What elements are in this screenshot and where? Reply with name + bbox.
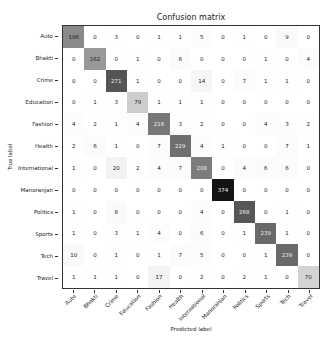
matrix-cell: 14: [191, 70, 212, 92]
matrix-cell: 186: [63, 26, 84, 48]
y-tick-label: Fashion: [0, 113, 60, 135]
matrix-cell: 20: [106, 157, 127, 179]
matrix-cell: 0: [63, 92, 84, 114]
y-tick-label: Bhakti: [0, 47, 60, 69]
x-tick: Bhakti: [84, 290, 106, 320]
matrix-cell: 1: [148, 244, 169, 266]
matrix-cell: 0: [191, 48, 212, 70]
matrix-cell: 5: [191, 26, 212, 48]
matrix-cell: 1: [148, 92, 169, 114]
matrix-cell: 4: [255, 113, 276, 135]
matrix-cell: 0: [170, 223, 191, 245]
y-tick-label: Crime: [0, 69, 60, 91]
matrix-cell: 0: [298, 201, 319, 223]
y-tick-label: Education: [0, 91, 60, 113]
x-tick: Travel: [299, 290, 321, 320]
y-tick-label: Politics: [0, 201, 60, 223]
x-tick: Tech: [277, 290, 299, 320]
matrix-cell: 1: [255, 244, 276, 266]
matrix-cell: 0: [234, 179, 255, 201]
matrix-cell: 8: [106, 201, 127, 223]
chart-title: Confusion matrix: [62, 13, 320, 22]
matrix-cell: 4: [191, 135, 212, 157]
matrix-cell: 0: [234, 113, 255, 135]
y-tick-label: Travel: [0, 267, 60, 289]
matrix-cell: 271: [106, 70, 127, 92]
x-tick: Auto: [62, 290, 84, 320]
x-tick: Manoranjan: [213, 290, 235, 320]
matrix-cell: 0: [170, 201, 191, 223]
matrix-cell: 0: [255, 135, 276, 157]
matrix-cell: 0: [212, 48, 233, 70]
matrix-cell: 0: [234, 92, 255, 114]
matrix-cell: 374: [212, 179, 233, 201]
matrix-cell: 3: [170, 113, 191, 135]
matrix-cell: 0: [148, 70, 169, 92]
matrix-cell: 0: [276, 92, 297, 114]
x-tick-label: Politics: [231, 293, 249, 311]
matrix-cell: 0: [106, 48, 127, 70]
matrix-cell: 162: [84, 48, 105, 70]
matrix-cell: 0: [84, 244, 105, 266]
y-tick-label: Tech: [0, 245, 60, 267]
x-tick-mark: [288, 290, 289, 293]
matrix-cell: 0: [170, 179, 191, 201]
matrix-cell: 6: [255, 157, 276, 179]
matrix-cell: 1: [63, 223, 84, 245]
matrix-cell: 5: [191, 244, 212, 266]
matrix-cell: 0: [84, 201, 105, 223]
y-tick-label: International: [0, 157, 60, 179]
matrix-cell: 7: [170, 244, 191, 266]
matrix-cell: 0: [170, 70, 191, 92]
matrix-cell: 1: [63, 201, 84, 223]
matrix-cell: 0: [84, 223, 105, 245]
matrix-cell: 1: [127, 223, 148, 245]
matrix-cell: 1: [148, 26, 169, 48]
matrix-cell: 0: [84, 179, 105, 201]
matrix-cell: 1: [255, 48, 276, 70]
matrix-cell: 0: [84, 26, 105, 48]
matrix-cell: 7: [234, 70, 255, 92]
x-tick-label: Travel: [298, 293, 314, 309]
matrix-cell: 0: [127, 135, 148, 157]
x-tick-label: Tech: [279, 293, 292, 306]
matrix-cell: 1: [84, 266, 105, 288]
matrix-cell: 1: [127, 48, 148, 70]
matrix-cell: 0: [234, 135, 255, 157]
matrix-cell: 0: [84, 157, 105, 179]
matrix-cell: 0: [298, 92, 319, 114]
matrix-cell: 0: [127, 26, 148, 48]
matrix-cell: 0: [212, 223, 233, 245]
y-tick-label: Auto: [0, 25, 60, 47]
matrix-cell: 0: [170, 266, 191, 288]
matrix-cell: 0: [298, 244, 319, 266]
matrix-cell: 2: [127, 157, 148, 179]
matrix-cell: 1: [255, 70, 276, 92]
matrix-cell: 3: [106, 92, 127, 114]
matrix-cell: 0: [276, 48, 297, 70]
matrix-cell: 0: [212, 70, 233, 92]
matrix-cell: 1: [276, 201, 297, 223]
matrix-cell: 9: [276, 26, 297, 48]
matrix-cell: 6: [170, 48, 191, 70]
matrix-cell: 4: [298, 48, 319, 70]
matrix-cell: 0: [234, 48, 255, 70]
confusion-matrix-grid: 1860301150109001620106000104002711001407…: [62, 25, 320, 289]
matrix-cell: 1: [298, 135, 319, 157]
matrix-cell: 0: [212, 92, 233, 114]
matrix-cell: 0: [148, 48, 169, 70]
matrix-cell: 1: [234, 223, 255, 245]
matrix-cell: 0: [106, 179, 127, 201]
x-axis-labels: AutoBhaktiCrimeEducationFashionHealthInt…: [62, 290, 320, 320]
matrix-cell: 0: [298, 223, 319, 245]
matrix-cell: 208: [191, 157, 212, 179]
x-tick: Education: [127, 290, 149, 320]
y-axis-labels: AutoBhaktiCrimeEducationFashionHealthInt…: [0, 25, 60, 289]
matrix-cell: 3: [106, 26, 127, 48]
matrix-cell: 0: [298, 179, 319, 201]
matrix-cell: 0: [63, 179, 84, 201]
matrix-cell: 0: [127, 244, 148, 266]
y-tick-label: Health: [0, 135, 60, 157]
x-tick-label: Health: [167, 293, 184, 310]
matrix-cell: 0: [63, 70, 84, 92]
